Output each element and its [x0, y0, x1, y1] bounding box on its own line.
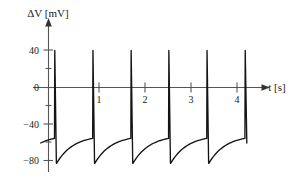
y-tick-label-0: 0	[34, 82, 39, 93]
x-tick-label-3: 3	[189, 94, 194, 105]
x-tick-label-4: 4	[235, 94, 240, 105]
chart-screenshot: 40 0 −40 −80 1 2 3 4 ΔV [mV] t [s]	[0, 0, 298, 179]
x-axis-title: t [s]	[268, 81, 285, 93]
action-potential-chart: 40 0 −40 −80 1 2 3 4 ΔV [mV] t [s]	[0, 0, 298, 179]
x-tick-label-2: 2	[143, 94, 148, 105]
y-axis-title: ΔV [mV]	[27, 7, 68, 19]
y-tick-label-minus-80: −80	[23, 155, 39, 166]
y-tick-label-40: 40	[29, 45, 39, 56]
x-tick-label-1: 1	[97, 94, 102, 105]
y-tick-label-minus-40: −40	[23, 119, 39, 130]
y-axis-arrowhead	[45, 18, 52, 27]
membrane-potential-trace	[41, 51, 247, 164]
